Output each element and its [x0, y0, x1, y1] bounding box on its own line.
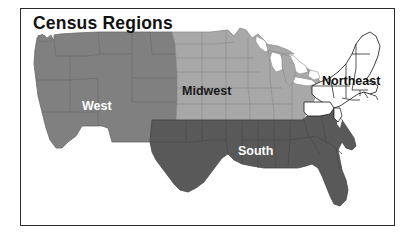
pennsylvania-shape [304, 102, 334, 116]
us-census-regions-map [20, 8, 395, 226]
region-midwest[interactable] [172, 28, 320, 120]
west-coast-detail [38, 34, 53, 42]
region-midwest-shape [172, 28, 320, 120]
census-regions-figure: Census Regions West Midwest South Northe… [0, 0, 414, 239]
